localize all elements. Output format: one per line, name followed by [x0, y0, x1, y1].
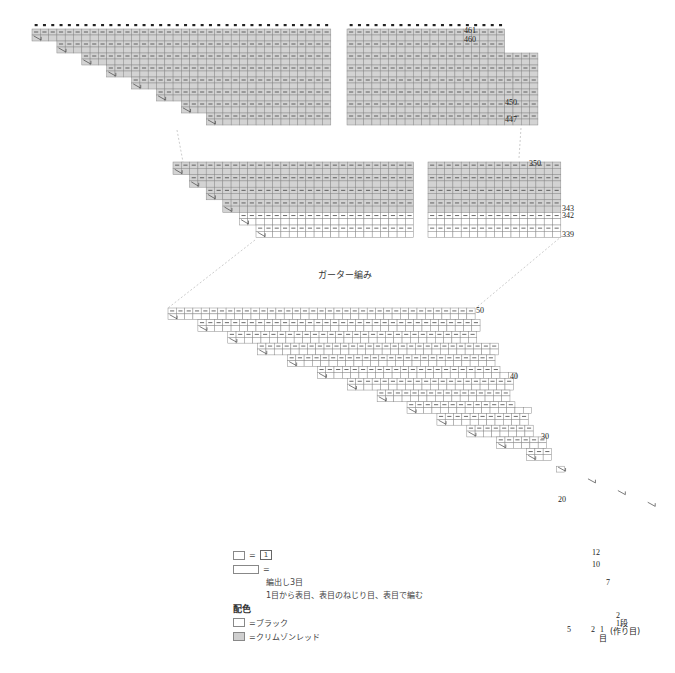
row-label-460: 460	[464, 36, 476, 44]
row-label-12: 12	[592, 549, 600, 557]
row-label-7: 7	[606, 579, 610, 587]
chart-title: ガーター編み	[318, 268, 372, 281]
row-label-447: 447	[505, 116, 517, 124]
increase-description: 1目から表目、表目のねじり目、表目で編む	[266, 589, 423, 600]
col-label-1: 1	[600, 626, 604, 634]
white-cell-swatch	[233, 551, 245, 560]
row-label-30: 30	[541, 433, 549, 441]
col-label-5: 5	[567, 626, 571, 634]
row-label-50: 50	[476, 307, 484, 315]
row-label-10: 10	[592, 561, 600, 569]
gray-swatch	[233, 632, 245, 641]
col-unit-label: 目	[599, 635, 607, 643]
row-label-339: 339	[562, 231, 574, 239]
legend-crimson: =クリムゾンレッド	[233, 629, 423, 643]
color-heading: 配色	[233, 602, 423, 615]
legend-knit: = 1	[233, 548, 423, 562]
row-label-450: 450	[505, 99, 517, 107]
row-label-342: 342	[562, 212, 574, 220]
row-label-350: 350	[529, 160, 541, 168]
increase-symbol-icon	[233, 565, 259, 574]
knit-symbol: 1	[260, 550, 272, 560]
col-label-2: 2	[591, 626, 595, 634]
legend: = 1 = 編出し3目 1目から表目、表目のねじり目、表目で編む 配色 =ブラッ…	[233, 548, 423, 643]
row-label-40: 40	[510, 373, 518, 381]
white-swatch	[233, 618, 245, 627]
row-label-461: 461	[464, 27, 476, 35]
legend-black: =ブラック	[233, 615, 423, 629]
legend-increase: =	[233, 562, 423, 576]
increase-label: 編出し3目	[266, 576, 423, 587]
row-label-20: 20	[558, 496, 566, 504]
cast-on-label: (作り目)	[610, 628, 640, 636]
